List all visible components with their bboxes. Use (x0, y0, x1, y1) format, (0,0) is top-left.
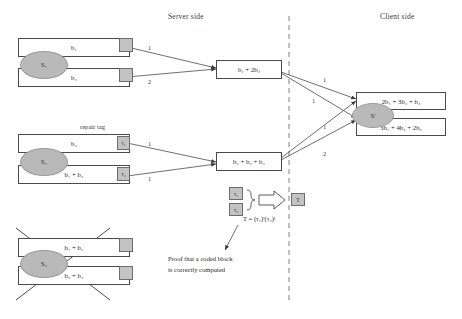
tau-input-1: τ₁ (229, 187, 243, 200)
diagram-canvas: Server side Client side b₁ b₂ S₁ 1 2 rep… (0, 0, 462, 319)
edge-s1-bottom-to-server (127, 69, 216, 77)
proof-caption-line2: is correctly computed (168, 266, 225, 275)
s1-block-1-tag (119, 68, 133, 82)
s3-node-label: S₃ (20, 250, 68, 278)
tau-brace (247, 190, 255, 210)
client-node-label: S' (352, 103, 394, 128)
edge-label-s1-bottom: 2 (148, 78, 151, 85)
client-side-header: Client side (380, 12, 415, 21)
combined-tag-box: T (291, 193, 305, 206)
tag-combine-arrow (259, 191, 285, 209)
edge-label-serverbottom-clientbottom: 2 (323, 150, 326, 157)
proof-arrow (225, 225, 238, 250)
edge-label-servertop-clienttop: 1 (323, 76, 326, 83)
edge-label-serverbottom-clienttop: 1 (323, 123, 326, 130)
tag-formula: T = (τ₁)ⁱ(τ₂)ʲ (243, 215, 275, 223)
repair-tag-label: repair tag (80, 123, 105, 130)
edge-servertop-to-clientbottom (281, 73, 356, 118)
s2-node-label: S₂ (20, 148, 68, 176)
edge-serverbottom-to-clienttop (281, 101, 356, 158)
edge-servertop-to-clienttop (281, 72, 356, 99)
tau-input-2: τ₂ (229, 203, 243, 216)
edge-label-s2-bottom: 1 (148, 175, 151, 182)
edge-s2-bottom-to-server (127, 164, 216, 176)
edge-label-s1-top: 1 (148, 44, 151, 51)
server-coded-block-top: b₁ + 2b₂ (216, 60, 282, 79)
s1-block-0-tag (119, 38, 133, 52)
edge-serverbottom-to-clientbottom (281, 120, 356, 160)
s2-block-1-tag: τ₂ (117, 167, 130, 181)
edge-label-s2-top: 1 (148, 140, 151, 147)
s2-block-0-tag: τ₁ (117, 136, 130, 150)
s3-block-1-tag (119, 266, 133, 280)
edge-s1-top-to-server (127, 47, 216, 68)
proof-caption-line1: Proof that a coded block (168, 255, 232, 264)
edge-label-servertop-clientbottom: 1 (312, 97, 315, 104)
s1-node-label: S₁ (20, 51, 68, 79)
s3-block-0-tag (119, 238, 133, 252)
edge-s2-top-to-server (127, 143, 216, 162)
server-side-header: Server side (168, 12, 204, 21)
server-coded-block-bottom: b₁ + b₂ + b₃ (216, 152, 282, 171)
